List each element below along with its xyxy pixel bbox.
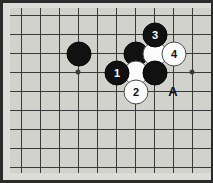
frame-border-right	[211, 0, 213, 183]
go-diagram-figure: 1234A	[0, 0, 213, 183]
black-stone-move-1[interactable]: 1	[105, 61, 130, 86]
frame-border-bottom	[0, 180, 213, 183]
grid-line-horizontal-8	[10, 167, 213, 168]
grid-line-horizontal-7	[10, 148, 213, 149]
black-stone-move-3-number: 3	[152, 30, 158, 41]
grid-line-horizontal-0	[10, 15, 213, 16]
black-stone-move-1-number: 1	[114, 68, 120, 79]
frame-border-left	[0, 0, 3, 183]
star-point-left	[76, 70, 81, 75]
star-point-right	[190, 70, 195, 75]
black-stone-plain-3[interactable]	[143, 61, 168, 86]
white-stone-move-2[interactable]: 2	[124, 80, 149, 105]
black-stone-move-3[interactable]: 3	[143, 23, 168, 48]
white-stone-move-2-number: 2	[133, 87, 139, 98]
point-label-a: A	[168, 85, 177, 98]
go-board-surface[interactable]: 1234A	[10, 8, 213, 173]
frame-border-top	[0, 0, 213, 3]
grid-line-horizontal-4	[10, 91, 213, 92]
grid-line-horizontal-6	[10, 129, 213, 130]
grid-line-horizontal-5	[10, 110, 213, 111]
white-stone-move-4[interactable]: 4	[162, 42, 187, 67]
white-stone-move-4-number: 4	[171, 49, 177, 60]
grid-line-horizontal-1	[10, 34, 213, 35]
black-stone-plain-1[interactable]	[67, 42, 92, 67]
